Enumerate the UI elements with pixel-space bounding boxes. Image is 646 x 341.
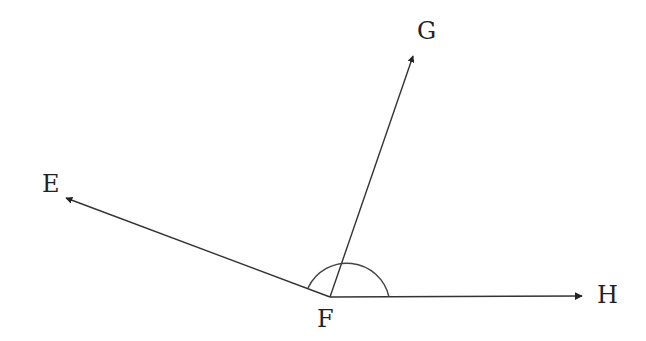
- diagram-canvas: E F G H: [0, 0, 646, 341]
- label-g: G: [417, 19, 436, 43]
- diagram-svg: [0, 0, 646, 341]
- label-f: F: [317, 307, 334, 331]
- label-h: H: [597, 283, 618, 307]
- ray-fe: [66, 198, 330, 297]
- angle-arc: [308, 263, 389, 297]
- label-e: E: [42, 172, 60, 196]
- ray-fg: [330, 56, 413, 297]
- ray-fh: [330, 296, 582, 297]
